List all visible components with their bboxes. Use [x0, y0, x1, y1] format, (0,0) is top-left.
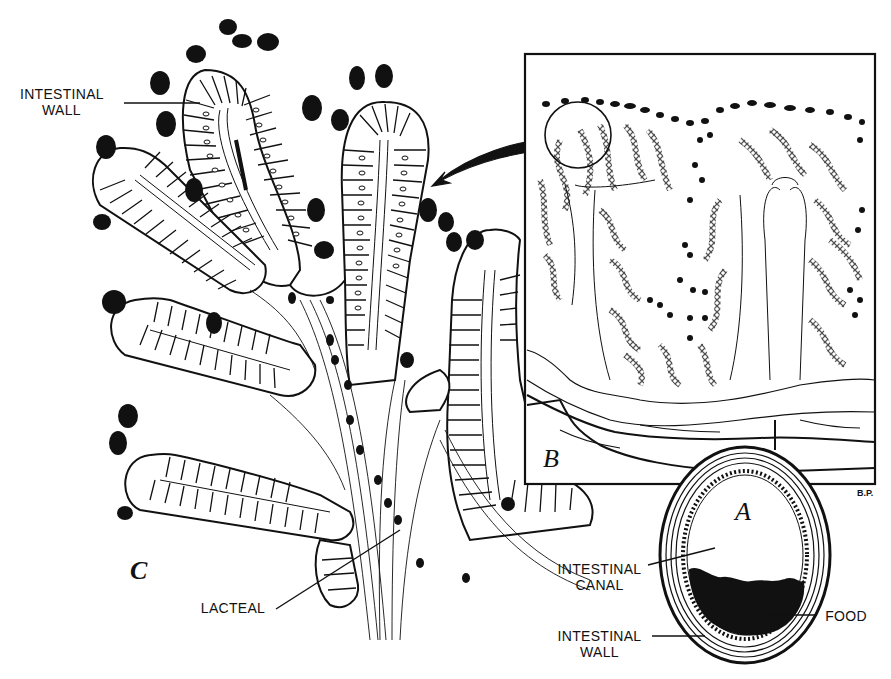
panel-b-section — [525, 54, 875, 484]
label-c-intestinal-wall: INTESTINAL WALL — [20, 86, 130, 118]
label-a-intestinal-wall-line2: WALL — [547, 644, 652, 660]
panel-c-villi — [93, 19, 593, 640]
panel-letter-a: A — [735, 497, 751, 527]
villus-6 — [316, 540, 358, 607]
villus-5 — [125, 454, 353, 540]
label-a-food: FOOD — [818, 608, 874, 624]
label-a-intestinal-canal: INTESTINAL CANAL — [547, 561, 652, 593]
label-a-intestinal-wall-line1: INTESTINAL — [547, 628, 652, 644]
label-a-intestinal-canal-line2: CANAL — [547, 577, 652, 593]
artist-signature: B.P. — [857, 488, 873, 498]
label-a-intestinal-canal-line1: INTESTINAL — [547, 561, 652, 577]
label-a-intestinal-wall: INTESTINAL WALL — [547, 628, 652, 660]
crypt-1 — [290, 280, 345, 296]
intestine-diagram: INTESTINAL WALL LACTEAL INTESTINAL CANAL… — [0, 0, 891, 679]
villus-8 — [406, 370, 449, 412]
panel-letter-c: C — [130, 556, 147, 586]
label-c-intestinal-wall-line1: INTESTINAL — [20, 86, 130, 102]
villus-2 — [342, 102, 429, 385]
panel-letter-b: B — [543, 444, 559, 474]
label-c-lacteal: LACTEAL — [190, 600, 276, 616]
label-c-intestinal-wall-line2: WALL — [20, 102, 130, 118]
